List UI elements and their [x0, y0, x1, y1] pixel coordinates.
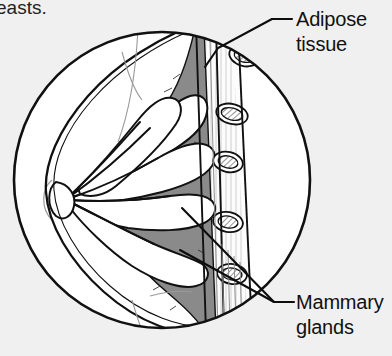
adipose-tissue-label-line2: tissue: [296, 33, 347, 55]
mammary-glands-label-line2: glands: [296, 316, 354, 338]
breast-anatomy-svg: easts.: [0, 0, 392, 356]
adipose-tissue-label-line1: Adipose: [296, 8, 367, 30]
anatomy-figure: easts.: [0, 0, 392, 356]
partial-caption-top-left: easts.: [0, 0, 47, 18]
mammary-glands-label-line1: Mammary: [296, 291, 384, 313]
